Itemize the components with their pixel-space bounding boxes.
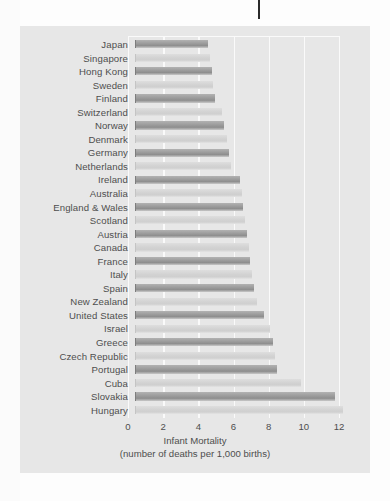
x-tick-label: 12 bbox=[334, 421, 345, 432]
category-label: Austria bbox=[20, 230, 135, 240]
bar bbox=[135, 108, 222, 116]
category-label: Denmark bbox=[20, 135, 135, 145]
category-label: Hungary bbox=[20, 406, 135, 416]
x-axis-subtitle: (number of deaths per 1,000 births) bbox=[20, 448, 370, 459]
category-label: Scotland bbox=[20, 216, 135, 226]
plot-area: JapanSingaporeHong KongSwedenFinlandSwit… bbox=[20, 26, 370, 473]
bar-cell bbox=[135, 79, 370, 93]
table-row: Netherlands bbox=[20, 160, 370, 174]
bar bbox=[135, 284, 254, 292]
bar-cell bbox=[135, 187, 370, 201]
category-label: United States bbox=[20, 311, 135, 321]
bar-cell bbox=[135, 160, 370, 174]
bar bbox=[135, 162, 231, 170]
table-row: New Zealand bbox=[20, 295, 370, 309]
table-row: Czech Republic bbox=[20, 350, 370, 364]
table-row: Israel bbox=[20, 322, 370, 336]
bar-cell bbox=[135, 268, 370, 282]
bar bbox=[135, 338, 273, 346]
bar-cell bbox=[135, 390, 370, 404]
bar-rows: JapanSingaporeHong KongSwedenFinlandSwit… bbox=[20, 38, 370, 417]
bar-cell bbox=[135, 119, 370, 133]
category-label: Norway bbox=[20, 121, 135, 131]
bar-cell bbox=[135, 404, 370, 418]
bar-cell bbox=[135, 38, 370, 52]
category-label: Portugal bbox=[20, 365, 135, 375]
table-row: Scotland bbox=[20, 214, 370, 228]
bar-cell bbox=[135, 282, 370, 296]
table-row: Germany bbox=[20, 146, 370, 160]
table-row: Portugal bbox=[20, 363, 370, 377]
bar bbox=[135, 270, 252, 278]
bar bbox=[135, 216, 245, 224]
bar bbox=[135, 352, 275, 360]
bar bbox=[135, 149, 229, 157]
category-label: Switzerland bbox=[20, 108, 135, 118]
category-label: New Zealand bbox=[20, 297, 135, 307]
bar-cell bbox=[135, 228, 370, 242]
table-row: Switzerland bbox=[20, 106, 370, 120]
x-tick-label: 8 bbox=[266, 421, 271, 432]
table-row: Sweden bbox=[20, 79, 370, 93]
category-label: Canada bbox=[20, 243, 135, 253]
bar-cell bbox=[135, 336, 370, 350]
category-label: Australia bbox=[20, 189, 135, 199]
table-row: Ireland bbox=[20, 173, 370, 187]
bar-cell bbox=[135, 295, 370, 309]
bar-cell bbox=[135, 255, 370, 269]
table-row: Spain bbox=[20, 282, 370, 296]
bar bbox=[135, 67, 212, 75]
category-label: Greece bbox=[20, 338, 135, 348]
bar-cell bbox=[135, 173, 370, 187]
bar-cell bbox=[135, 146, 370, 160]
table-row: Austria bbox=[20, 228, 370, 242]
table-row: Hungary bbox=[20, 404, 370, 418]
bar bbox=[135, 203, 243, 211]
category-label: Sweden bbox=[20, 81, 135, 91]
bar bbox=[135, 121, 224, 129]
bar bbox=[135, 94, 215, 102]
table-row: England & Wales bbox=[20, 201, 370, 215]
bar bbox=[135, 298, 257, 306]
category-label: Germany bbox=[20, 148, 135, 158]
bar bbox=[135, 81, 213, 89]
chart-panel: JapanSingaporeHong KongSwedenFinlandSwit… bbox=[20, 26, 370, 473]
category-label: Netherlands bbox=[20, 162, 135, 172]
table-row: Australia bbox=[20, 187, 370, 201]
table-row: Finland bbox=[20, 92, 370, 106]
bar-cell bbox=[135, 133, 370, 147]
category-label: Singapore bbox=[20, 54, 135, 64]
bar bbox=[135, 311, 264, 319]
bar-cell bbox=[135, 377, 370, 391]
bar-cell bbox=[135, 65, 370, 79]
table-row: Singapore bbox=[20, 52, 370, 66]
bar bbox=[135, 392, 335, 400]
bar-cell bbox=[135, 350, 370, 364]
x-tick-label: 2 bbox=[160, 421, 165, 432]
table-row: Denmark bbox=[20, 133, 370, 147]
bar bbox=[135, 365, 277, 373]
category-label: Israel bbox=[20, 324, 135, 334]
scan-artifact-line bbox=[258, 0, 260, 19]
x-tick-label: 0 bbox=[125, 421, 130, 432]
category-label: Hong Kong bbox=[20, 67, 135, 77]
bar bbox=[135, 379, 301, 387]
bar bbox=[135, 40, 208, 48]
x-tick-label: 4 bbox=[196, 421, 201, 432]
x-tick-label: 6 bbox=[231, 421, 236, 432]
category-label: Italy bbox=[20, 270, 135, 280]
category-label: Cuba bbox=[20, 379, 135, 389]
table-row: Greece bbox=[20, 336, 370, 350]
bar-cell bbox=[135, 363, 370, 377]
category-label: Ireland bbox=[20, 175, 135, 185]
x-tick-label: 10 bbox=[298, 421, 309, 432]
category-label: Czech Republic bbox=[20, 352, 135, 362]
scan-left-band bbox=[0, 0, 20, 501]
bar-cell bbox=[135, 214, 370, 228]
bar-cell bbox=[135, 201, 370, 215]
table-row: Hong Kong bbox=[20, 65, 370, 79]
bar-cell bbox=[135, 322, 370, 336]
bar bbox=[135, 189, 242, 197]
table-row: Japan bbox=[20, 38, 370, 52]
table-row: Cuba bbox=[20, 377, 370, 391]
